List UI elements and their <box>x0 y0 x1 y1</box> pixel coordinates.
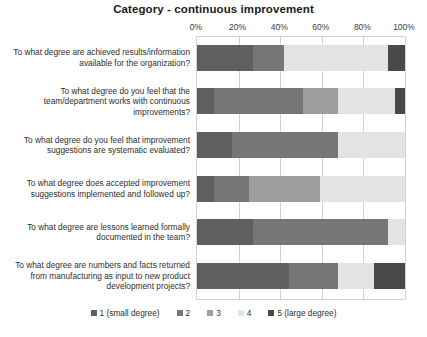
x-tick-label: 20% <box>229 22 246 32</box>
x-tick-label: 80% <box>354 22 371 32</box>
x-tick-label: 40% <box>271 22 288 32</box>
bar-segment <box>253 45 284 71</box>
bar-segment <box>197 263 289 289</box>
legend-swatch-icon <box>91 310 97 316</box>
bar-segment <box>197 45 253 71</box>
bar-segment <box>197 219 253 245</box>
bar-segment <box>197 132 232 158</box>
bar-segment <box>253 219 388 245</box>
legend-swatch-icon <box>238 310 244 316</box>
category-label: To what degree are numbers and facts ret… <box>2 260 190 292</box>
x-tick-label: 100% <box>393 22 415 32</box>
legend-item[interactable]: 4 <box>238 308 252 318</box>
chart-row: To what degree are lessons learned forma… <box>0 211 427 255</box>
bar-segment <box>320 176 405 202</box>
bar-segment <box>303 88 338 114</box>
legend-swatch-icon <box>177 310 183 316</box>
legend-label: 5 (large degree) <box>277 308 336 318</box>
stacked-bar <box>197 176 405 202</box>
category-label: To what degree are lessons learned forma… <box>2 222 190 243</box>
x-axis-tick-labels: 0%20%40%60%80%100% <box>196 22 404 35</box>
stacked-bar <box>197 219 405 245</box>
chart-row: To what degree do you feel that the team… <box>0 80 427 124</box>
legend-label: 1 (small degree) <box>100 308 160 318</box>
stacked-bar <box>197 88 405 114</box>
legend-label: 3 <box>216 308 221 318</box>
chart-row: To what degree do you feel that improvem… <box>0 123 427 167</box>
bar-segment <box>395 88 405 114</box>
chart-legend: 1 (small degree)2345 (large degree) <box>0 308 427 318</box>
bar-segment <box>338 88 394 114</box>
legend-swatch-icon <box>207 310 213 316</box>
bar-segment <box>388 219 405 245</box>
bar-segment <box>284 45 388 71</box>
bar-segment <box>249 176 320 202</box>
category-label: To what degree do you feel that the team… <box>2 86 190 118</box>
chart-title: Category - continuous improvement <box>0 3 427 15</box>
legend-swatch-icon <box>268 310 274 316</box>
chart-rows: To what degree are achieved results/info… <box>0 36 427 298</box>
chart-container: Category - continuous improvement 0%20%4… <box>0 0 427 337</box>
stacked-bar <box>197 45 405 71</box>
bar-segment <box>388 45 405 71</box>
stacked-bar <box>197 132 405 158</box>
bar-segment <box>214 176 249 202</box>
category-label: To what degree are achieved results/info… <box>2 47 190 68</box>
bar-segment <box>197 176 214 202</box>
legend-label: 4 <box>247 308 252 318</box>
chart-row: To what degree are achieved results/info… <box>0 36 427 80</box>
bar-segment <box>214 88 303 114</box>
legend-item[interactable]: 1 (small degree) <box>91 308 160 318</box>
chart-row: To what degree does accepted improvement… <box>0 167 427 211</box>
bar-segment <box>232 132 338 158</box>
legend-item[interactable]: 2 <box>177 308 191 318</box>
legend-label: 2 <box>186 308 191 318</box>
category-label: To what degree do you feel that improvem… <box>2 135 190 156</box>
bar-segment <box>197 88 214 114</box>
legend-item[interactable]: 5 (large degree) <box>268 308 336 318</box>
x-tick-label: 60% <box>312 22 329 32</box>
bar-segment <box>289 263 339 289</box>
chart-row: To what degree are numbers and facts ret… <box>0 254 427 298</box>
stacked-bar <box>197 263 405 289</box>
legend-item[interactable]: 3 <box>207 308 221 318</box>
category-label: To what degree does accepted improvement… <box>2 178 190 199</box>
bar-segment <box>374 263 405 289</box>
bar-segment <box>338 132 405 158</box>
x-tick-label: 0% <box>190 22 202 32</box>
bar-segment <box>338 263 373 289</box>
